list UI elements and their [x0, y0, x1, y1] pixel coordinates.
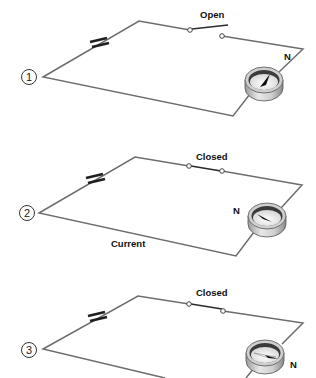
compass-icon: [245, 67, 283, 101]
circuit-diagrams: Open N 1 Closed N Current: [0, 0, 316, 378]
north-label: N: [284, 51, 291, 62]
switch-label: Closed: [196, 151, 228, 162]
circuit-1: Open N 1: [22, 9, 304, 116]
compass-icon: [246, 340, 284, 374]
compass-icon: [248, 203, 286, 237]
switch-closed-icon: [187, 164, 225, 174]
diagram-number: 3: [26, 344, 32, 356]
wire: [43, 21, 250, 116]
wire: [222, 171, 302, 208]
north-label: N: [233, 205, 240, 216]
wire: [223, 311, 303, 344]
switch-label: Closed: [196, 287, 228, 298]
circuit-3: Closed N 3: [22, 287, 304, 378]
wire: [43, 296, 189, 378]
switch-closed-icon: [187, 302, 226, 314]
current-label: Current: [111, 238, 146, 249]
battery-icon: [86, 174, 105, 183]
battery-icon: [88, 312, 107, 321]
diagram-number: 1: [26, 71, 32, 83]
battery-icon: [90, 38, 109, 47]
switch-open-icon: [188, 25, 228, 38]
switch-label: Open: [200, 9, 224, 20]
circuit-2: Closed N Current 2: [20, 151, 303, 256]
diagram-number: 2: [24, 207, 30, 219]
north-label: N: [290, 359, 297, 370]
